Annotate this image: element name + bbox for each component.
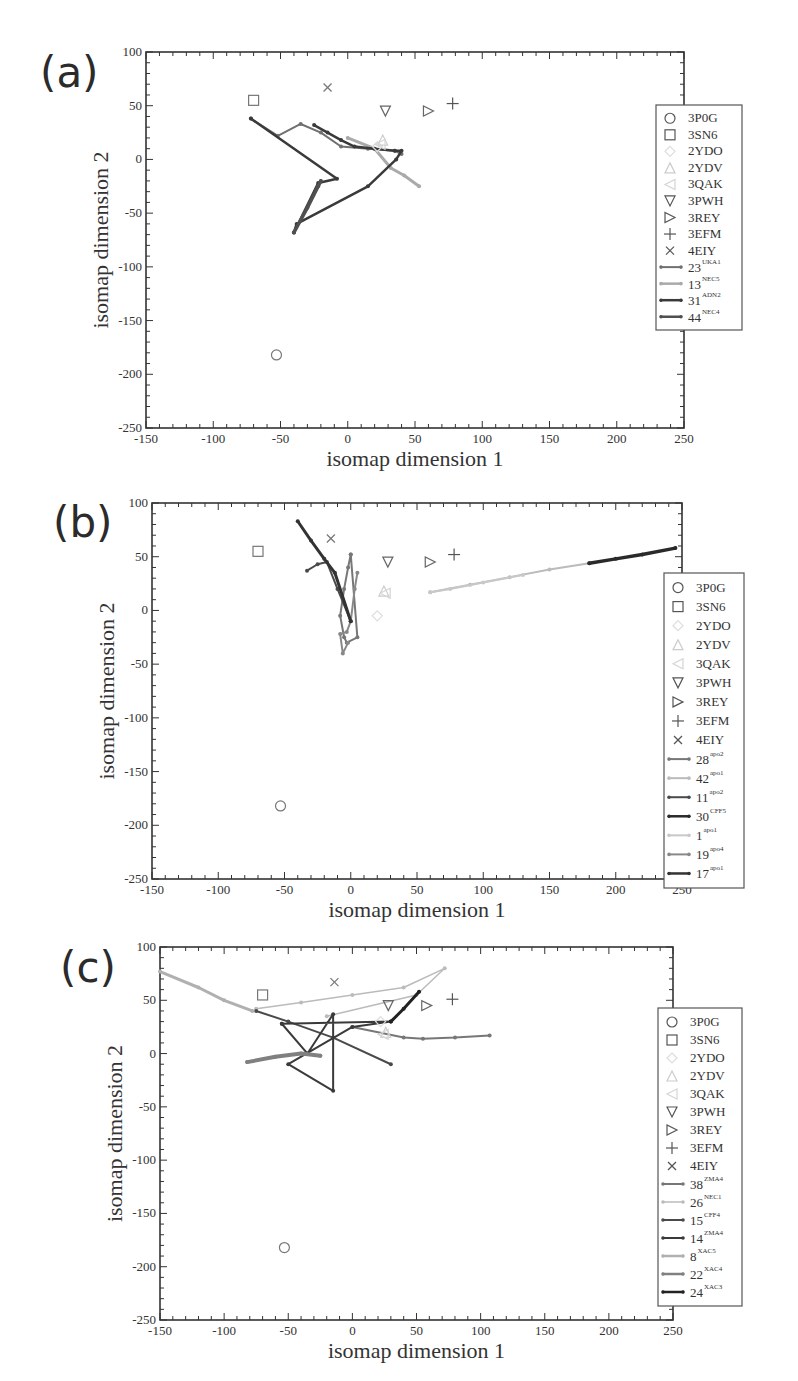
trajectory-22 [247,1054,320,1063]
trajectory-point [325,1014,329,1018]
trajectory-point [273,1055,277,1059]
x-tick-label: -50 [280,1323,297,1338]
legend-label-3SN6: 3SN6 [690,1032,720,1047]
x-tick-label: 250 [663,1323,683,1338]
trajectory-point [389,1020,393,1024]
y-axis: -250-200-150-100-50050100isomap dimensio… [102,939,673,1327]
trajectory-point [402,985,406,989]
chart-c: -150-100-50050100150200250isomap dimensi… [0,0,798,1381]
x-tick-label: 100 [471,1323,491,1338]
y-tick-label: -200 [132,1259,156,1274]
x-tick-label: 50 [410,1323,423,1338]
x-tick-label: -100 [212,1323,236,1338]
x-tick-label: 0 [349,1323,356,1338]
trajectory-point [350,1025,354,1029]
trajectory-point [402,1007,406,1011]
trajectory-series [158,966,492,1093]
3P0G-marker [279,1243,289,1253]
legend-label-3P0G: 3P0G [690,1014,720,1029]
y-tick-label: 0 [150,1046,157,1061]
legend-label-4EIY: 4EIY [690,1158,719,1173]
legend-label-3QAK: 3QAK [690,1086,725,1101]
y-tick-label: -250 [132,1312,156,1327]
trajectory-24 [391,992,419,1022]
y-tick-label: -150 [132,1205,156,1220]
plot-frame [160,947,673,1320]
trajectory-point [417,990,421,994]
legend-label-3PWH: 3PWH [690,1104,725,1119]
trajectory-point [299,1052,303,1056]
3REY-marker [422,1001,432,1011]
x-axis: -150-100-50050100150200250isomap dimensi… [148,947,683,1363]
trajectory-point [286,1062,290,1066]
trajectory-point [331,1012,335,1016]
trajectory-point [488,1033,492,1037]
trajectory-point [222,998,226,1002]
legend-label-2YDO: 2YDO [690,1050,725,1065]
trajectory-point [443,966,447,970]
y-tick-label: -100 [132,1152,156,1167]
y-tick-label: 50 [143,992,156,1007]
trajectory-point [389,1062,393,1066]
trajectory-point [299,1000,303,1004]
trajectory-point [421,1037,425,1041]
y-axis-title: isomap dimension 2 [102,1045,127,1222]
x-axis-title: isomap dimension 1 [328,1338,505,1363]
y-tick-label: 100 [137,939,157,954]
trajectory-point [196,985,200,989]
trajectory-point [318,1054,322,1058]
3SN6-marker [258,990,268,1000]
x-tick-label: 150 [535,1323,555,1338]
legend-label-3EFM: 3EFM [690,1140,724,1155]
trajectory-point [453,1036,457,1040]
trajectory-point [280,1022,284,1026]
y-tick-label: -50 [139,1099,156,1114]
trajectory-point [402,1036,406,1040]
reference-structures [258,978,459,1252]
panel-c: (c) -150-100-50050100150200250isomap dim… [0,0,798,1381]
trajectory-point [350,993,354,997]
x-tick-label: 200 [599,1323,619,1338]
trajectory-point [250,1009,254,1013]
trajectory-point [245,1060,249,1064]
trajectory-point [254,1009,258,1013]
trajectory-8 [160,972,252,1011]
trajectory-point [158,970,162,974]
legend-label-2YDV: 2YDV [690,1068,725,1083]
legend: 3P0G3SN62YDO2YDV3QAK3PWH3REY3EFM4EIY38ZM… [658,1008,742,1306]
legend-label-3REY: 3REY [690,1122,723,1137]
trajectory-26 [256,968,445,1016]
trajectory-point [331,1089,335,1093]
trajectory-38 [352,1027,489,1039]
